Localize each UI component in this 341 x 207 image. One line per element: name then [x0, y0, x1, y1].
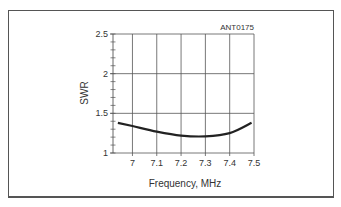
chart-grid	[110, 34, 254, 156]
x-tick-label: 7.3	[199, 158, 212, 168]
x-tick-label: 7.5	[248, 158, 261, 168]
y-tick-labels: 11.522.5	[95, 29, 108, 158]
x-axis-label: Frequency, MHz	[149, 178, 222, 189]
figure-id-label: ANT0175	[220, 23, 254, 32]
x-tick-label: 7	[130, 158, 135, 168]
swr-chart: 77.17.27.37.47.5 11.522.5 ANT0175 Freque…	[0, 0, 341, 207]
x-tick-label: 7.2	[175, 158, 188, 168]
y-tick-label: 2.5	[95, 29, 108, 39]
x-tick-label: 7.1	[151, 158, 164, 168]
y-tick-label: 2	[103, 69, 108, 79]
y-tick-label: 1.5	[95, 108, 108, 118]
y-tick-label: 1	[103, 148, 108, 158]
y-axis-label: SWR	[79, 81, 90, 104]
x-tick-labels: 77.17.27.37.47.5	[130, 158, 260, 168]
x-tick-label: 7.4	[223, 158, 236, 168]
swr-curve	[118, 123, 252, 137]
